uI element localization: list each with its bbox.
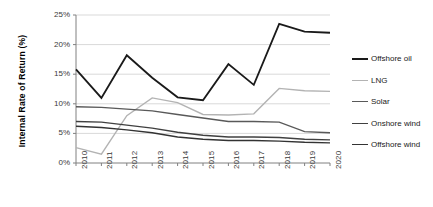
y-axis-tick-label: 0% (40, 159, 70, 167)
x-axis-tick-label: 2013 (156, 151, 165, 169)
x-axis-tick-label: 2015 (207, 151, 216, 169)
legend-item[interactable]: LNG (352, 70, 433, 92)
x-axis-tick-label: 2014 (181, 151, 190, 169)
legend-swatch-icon (352, 101, 368, 102)
legend-item[interactable]: Offshore oil (352, 48, 433, 70)
legend-item-label: Solar (371, 97, 390, 106)
x-axis-tick-label: 2019 (308, 151, 317, 169)
series-line-onshore-wind (76, 122, 330, 140)
legend-item-label: Onshore wind (371, 119, 420, 128)
y-axis-tick-label: 25% (40, 11, 70, 19)
x-axis-tick-label: 2011 (105, 151, 114, 169)
x-axis-tick-label: 2010 (80, 151, 89, 169)
y-axis-tick-labels: 0%5%10%15%20%25% (38, 0, 70, 207)
x-axis-tick-label: 2018 (283, 151, 292, 169)
chart-container: Internal Rate of Return (%) 0%5%10%15%20… (0, 0, 433, 207)
chart-legend: Offshore oilLNGSolarOnshore windOffshore… (352, 48, 433, 156)
y-axis-tick-label: 15% (40, 70, 70, 78)
legend-item[interactable]: Solar (352, 91, 433, 113)
legend-swatch-icon (352, 123, 368, 124)
y-axis-tick-label: 10% (40, 100, 70, 108)
series-line-lng (76, 88, 330, 154)
legend-item[interactable]: Onshore wind (352, 113, 433, 135)
x-axis-tick-label: 2017 (257, 151, 266, 169)
legend-item-label: Offshore oil (371, 54, 412, 63)
legend-swatch-icon (352, 144, 368, 145)
y-axis-title: Internal Rate of Return (%) (17, 11, 27, 171)
x-axis-tick-label: 2012 (130, 151, 139, 169)
legend-swatch-icon (352, 58, 368, 60)
x-axis-tick-label: 2020 (334, 151, 343, 169)
y-axis-tick-label: 20% (40, 41, 70, 49)
legend-item-label: Offshore wind (371, 140, 420, 149)
series-line-offshore-oil (76, 24, 330, 100)
legend-item[interactable]: Offshore wind (352, 134, 433, 156)
x-axis-tick-label: 2016 (232, 151, 241, 169)
legend-swatch-icon (352, 80, 368, 81)
y-axis-tick-label: 5% (40, 129, 70, 137)
legend-item-label: LNG (371, 76, 387, 85)
